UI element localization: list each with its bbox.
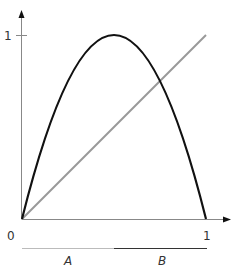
y-axis-arrow-icon bbox=[19, 10, 25, 18]
origin-label: 0 bbox=[7, 229, 15, 243]
interval-b-label: B bbox=[158, 254, 166, 268]
y-tick-label: 1 bbox=[4, 29, 12, 43]
x-axis-arrow-icon bbox=[223, 217, 231, 223]
interval-a-label: A bbox=[63, 254, 72, 268]
x-tick-label: 1 bbox=[203, 229, 211, 243]
function-diagram: 0 1 1 A B bbox=[0, 0, 242, 278]
